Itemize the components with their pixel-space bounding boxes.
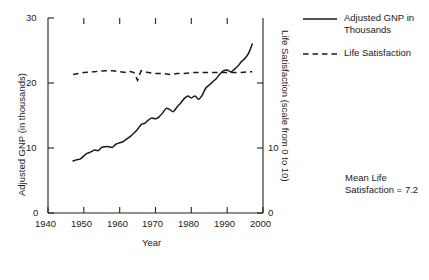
legend-solid-line-icon [303, 17, 337, 21]
x-axis-top-ticks [84, 18, 227, 24]
x-tick-label-1970: 1970 [142, 218, 163, 230]
legend-label-adjusted-gnp-line2: Thousands [344, 24, 391, 35]
x-tick-label-1980: 1980 [178, 218, 199, 230]
x-tick-label-1950: 1950 [71, 218, 92, 230]
mean-life-satisfaction-annotation: Mean Life Satisfaction = 7.2 [345, 172, 418, 197]
y-axis-right-title: Life Satisfaction (scale from 0 to 10) [279, 30, 291, 182]
y-right-tick-label-10: 10 [268, 142, 279, 154]
x-tick-label-1940: 1940 [35, 218, 56, 230]
annotation-line1: Mean Life [345, 172, 387, 183]
legend-label-adjusted-gnp-line1: Adjusted GNP in [344, 12, 414, 23]
x-axis-title: Year [142, 237, 161, 249]
legend-dashed-line-icon [303, 52, 337, 56]
chart-legend: Adjusted GNP in Thousands Life Satisfact… [303, 12, 429, 70]
x-axis-ticks [48, 207, 263, 213]
legend-item-adjusted-gnp: Adjusted GNP in Thousands [303, 12, 429, 36]
legend-label-life-satisfaction: Life Satisfaction [344, 47, 411, 59]
chart-figure: 30 20 10 0 10 0 1940 1950 1960 1970 1980… [0, 0, 429, 280]
y-axis-right-ticks [257, 83, 263, 213]
y-axis-left-title: Adjusted GNP (in thousands) [16, 73, 28, 196]
annotation-line2: Satisfaction = 7.2 [345, 184, 418, 195]
x-tick-label-1960: 1960 [107, 218, 128, 230]
series-life-satisfaction [73, 71, 252, 81]
series-adjusted-gnp [73, 44, 252, 161]
y-axis-left-ticks [48, 18, 54, 213]
legend-item-life-satisfaction: Life Satisfaction [303, 47, 429, 59]
x-tick-label-2000: 2000 [250, 218, 271, 230]
legend-label-adjusted-gnp: Adjusted GNP in Thousands [344, 12, 414, 36]
y-left-tick-label-30: 30 [26, 12, 37, 24]
x-tick-label-1990: 1990 [214, 218, 235, 230]
